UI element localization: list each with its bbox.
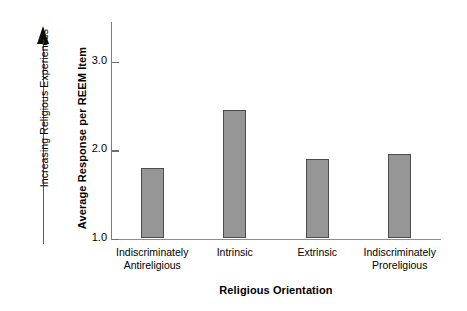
x-axis-title: Religious Orientation — [111, 284, 441, 296]
bar — [388, 154, 411, 239]
x-tick-label-line: Proreligious — [359, 259, 442, 272]
x-tick-label: Intrinsic — [194, 246, 277, 259]
y-tick-mark — [112, 62, 119, 63]
y-tick-mark — [112, 239, 119, 240]
x-tick-label-line: Indiscriminately — [111, 246, 194, 259]
x-tick-label-line: Indiscriminately — [359, 246, 442, 259]
y-tick-label: 1.0 — [92, 231, 107, 243]
increasing-experiences-annotation: Increasing Religious Experiences — [22, 26, 70, 246]
y-tick-label: 3.0 — [92, 54, 107, 66]
y-tick-mark — [112, 150, 119, 151]
bar-chart-figure: Increasing Religious Experiences Average… — [0, 0, 467, 311]
y-axis-title: Average Response per REEM Item — [76, 38, 88, 238]
x-tick-label: IndiscriminatelyAntireligious — [111, 246, 194, 271]
x-tick-label: Extrinsic — [276, 246, 359, 259]
y-tick-label: 2.0 — [92, 142, 107, 154]
x-tick-label-line: Intrinsic — [194, 246, 277, 259]
x-tick-label-line: Antireligious — [111, 259, 194, 272]
bar — [306, 159, 329, 239]
x-tick-label-line: Extrinsic — [276, 246, 359, 259]
plot-area: 1.02.03.0 IndiscriminatelyAntireligiousI… — [111, 22, 441, 240]
bar — [141, 168, 164, 239]
x-axis-line — [111, 239, 441, 240]
y-axis-line — [111, 22, 112, 240]
bar — [223, 110, 246, 238]
arrow-caption-label: Increasing Religious Experiences — [38, 8, 50, 208]
x-tick-label: IndiscriminatelyProreligious — [359, 246, 442, 271]
